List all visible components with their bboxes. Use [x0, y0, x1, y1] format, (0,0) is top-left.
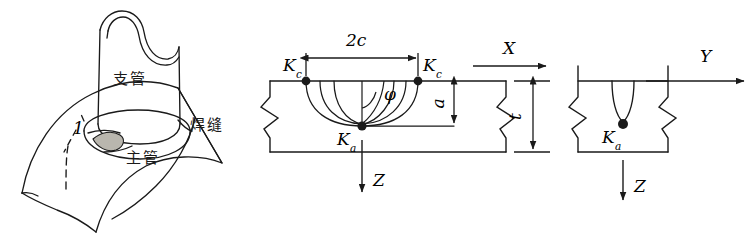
branch-pipe-right-wall [179, 47, 180, 124]
k-a-label: Ka [602, 129, 621, 149]
k-a-label: Ka [337, 131, 356, 151]
left-break-line [261, 81, 278, 152]
right-break-line [659, 66, 676, 152]
main-pipe-outline [22, 82, 222, 232]
phi-angle-label: φ [384, 86, 396, 103]
crack-cross-section-drawing [258, 0, 558, 246]
k-c-left-subscript: c [296, 68, 302, 80]
weld-collar-top [84, 110, 190, 131]
phi-inclined-radius [362, 81, 384, 124]
crack-side-view-drawing [560, 0, 756, 246]
crack-tip-right-marker [414, 77, 423, 86]
branch-pipe-bore-left [107, 31, 108, 38]
branch-pipe-label: 支管 [113, 72, 147, 87]
branch-pipe-top-inner [108, 17, 179, 65]
axis-x-label: X [503, 40, 515, 57]
figure-root: 支管 主管 焊缝 1 [0, 0, 756, 246]
crack-profile [612, 81, 634, 122]
k-c-right-subscript: c [436, 68, 442, 80]
left-break-line [569, 66, 586, 152]
main-pipe-hidden-line [66, 146, 68, 189]
main-pipe-right-edge [112, 118, 195, 219]
k-a-symbol: K [602, 127, 615, 147]
axis-y-label: Y [700, 48, 711, 65]
tubular-joint-panel: 支管 主管 焊缝 1 [0, 0, 260, 246]
crack-side-view-panel: Ka Y Z [560, 0, 756, 246]
crack-depth-dim-label: a [430, 98, 447, 108]
k-a-subscript: a [350, 142, 356, 154]
crack-deepest-point-marker [357, 121, 366, 130]
surface-crack [93, 132, 123, 151]
k-a-symbol: K [337, 129, 350, 149]
weld-seam-label: 焊缝 [190, 118, 224, 133]
phi-arc [362, 92, 376, 108]
crack-marker-label: 1 [73, 120, 84, 137]
branch-pipe-left-wall [98, 30, 100, 124]
axis-z-label: Z [634, 178, 646, 195]
axis-z-label: Z [373, 172, 385, 189]
k-c-right-label: Kc [423, 57, 442, 77]
main-pipe-label: 主管 [126, 151, 160, 166]
k-c-left-symbol: K [283, 55, 296, 75]
crack-tip-left-marker [302, 77, 311, 86]
k-c-left-label: Kc [283, 57, 302, 77]
k-c-right-symbol: K [423, 55, 436, 75]
thickness-dim-label: t [507, 113, 524, 120]
crack-tip-marker [618, 119, 628, 129]
crack-cross-section-panel: Kc Kc Ka φ a t X Z 2c [258, 0, 558, 246]
crack-width-dim-label: 2c [346, 32, 366, 49]
main-pipe-bottom-break [22, 193, 96, 232]
k-a-subscript: a [615, 140, 621, 152]
